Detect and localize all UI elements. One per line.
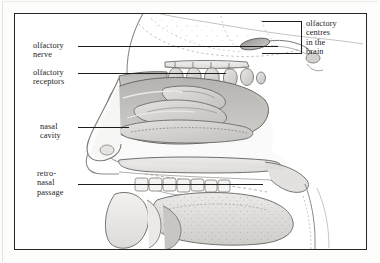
leader-line-nasal-cavity [78,127,129,128]
label-olfactory-receptors: olfactory receptors [33,68,64,87]
label-olfactory-centres-in-the-brain: olfactory centres in the brain [306,19,337,57]
label-retro-nasal-passage: retro- nasal passage [37,169,64,197]
figure-canvas: olfactory nerve olfactory receptors nasa… [0,0,380,263]
figure-frame: olfactory nerve olfactory receptors nasa… [14,13,367,250]
leader-line-olfactory-receptors [78,73,226,74]
pharynx [303,184,329,250]
cribriform-plate [165,61,249,69]
leader-line-retro-nasal-passage [78,184,263,185]
leader-line-olfactory-nerve [78,46,278,47]
label-olfactory-nerve: olfactory nerve [33,41,64,60]
label-nasal-cavity: nasal cavity [40,122,61,141]
upper-teeth [135,178,230,192]
bracket-olfactory-centres [262,21,302,54]
